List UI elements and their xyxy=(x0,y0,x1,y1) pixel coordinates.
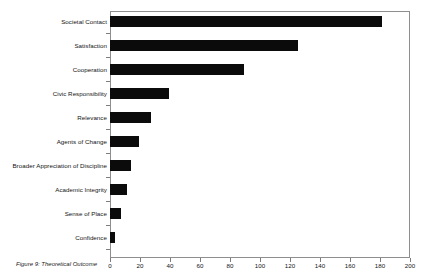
category-label-text: Academic Integrity xyxy=(1,184,107,195)
category-label-text: Confidence xyxy=(1,232,107,243)
bar xyxy=(110,40,298,51)
category-label-text: Sense of Place xyxy=(1,208,107,219)
y-axis-tick xyxy=(106,81,110,82)
bar-fill xyxy=(110,40,298,51)
bar-fill xyxy=(110,88,169,99)
bar xyxy=(110,16,382,27)
x-axis-tick-label: 0 xyxy=(98,262,122,270)
category-label: Satisfaction xyxy=(0,40,107,51)
bar-fill xyxy=(110,64,244,75)
bar xyxy=(110,88,169,99)
category-label: Relevance xyxy=(0,112,107,123)
category-label-text: Relevance xyxy=(1,112,107,123)
y-axis-tick xyxy=(106,153,110,154)
y-axis-tick xyxy=(106,129,110,130)
x-axis-tick-label: 60 xyxy=(188,262,212,270)
category-label: Civic Responsibility xyxy=(0,88,107,99)
bar xyxy=(110,184,127,195)
bar xyxy=(110,112,151,123)
bar-fill xyxy=(110,208,121,219)
category-label-text: Societal Contact xyxy=(1,16,107,27)
bar xyxy=(110,232,115,243)
y-axis-tick xyxy=(106,201,110,202)
y-axis-tick xyxy=(106,177,110,178)
x-axis-tick-label: 160 xyxy=(338,262,362,270)
bar xyxy=(110,136,139,147)
bar-fill xyxy=(110,16,382,27)
category-label: Societal Contact xyxy=(0,16,107,27)
bar-fill xyxy=(110,184,127,195)
category-label: Sense of Place xyxy=(0,208,107,219)
bar xyxy=(110,64,244,75)
bar-fill xyxy=(110,160,131,171)
x-axis-tick-label: 120 xyxy=(278,262,302,270)
y-axis-tick xyxy=(106,57,110,58)
category-label: Academic Integrity xyxy=(0,184,107,195)
category-label-text: Agents of Change xyxy=(1,136,107,147)
figure-caption: Figure 9: Theoretical Outcome xyxy=(16,261,97,267)
x-axis-tick-label: 40 xyxy=(158,262,182,270)
x-axis-tick-label: 20 xyxy=(128,262,152,270)
bar-fill xyxy=(110,136,139,147)
category-label: Cooperation xyxy=(0,64,107,75)
bar xyxy=(110,208,121,219)
y-axis-tick xyxy=(106,105,110,106)
x-axis-tick-label: 180 xyxy=(368,262,392,270)
y-axis-tick xyxy=(106,33,110,34)
bar-fill xyxy=(110,112,151,123)
bar xyxy=(110,160,131,171)
x-axis-tick-label: 200 xyxy=(398,262,422,270)
category-label-text: Satisfaction xyxy=(1,40,107,51)
category-label: Confidence xyxy=(0,232,107,243)
category-label-text: Broader Appreciation of Discipline xyxy=(1,160,107,171)
bar-fill xyxy=(110,232,115,243)
category-label-text: Cooperation xyxy=(1,64,107,75)
category-label: Agents of Change xyxy=(0,136,107,147)
category-label: Broader Appreciation of Discipline xyxy=(0,160,107,171)
x-axis-tick-label: 140 xyxy=(308,262,332,270)
y-axis-tick xyxy=(106,249,110,250)
x-axis-tick-label: 100 xyxy=(248,262,272,270)
y-axis-tick xyxy=(106,225,110,226)
x-axis-tick-label: 80 xyxy=(218,262,242,270)
figure-theoretical-outcome: Societal ContactSatisfactionCooperationC… xyxy=(0,0,429,279)
category-label-text: Civic Responsibility xyxy=(1,88,107,99)
